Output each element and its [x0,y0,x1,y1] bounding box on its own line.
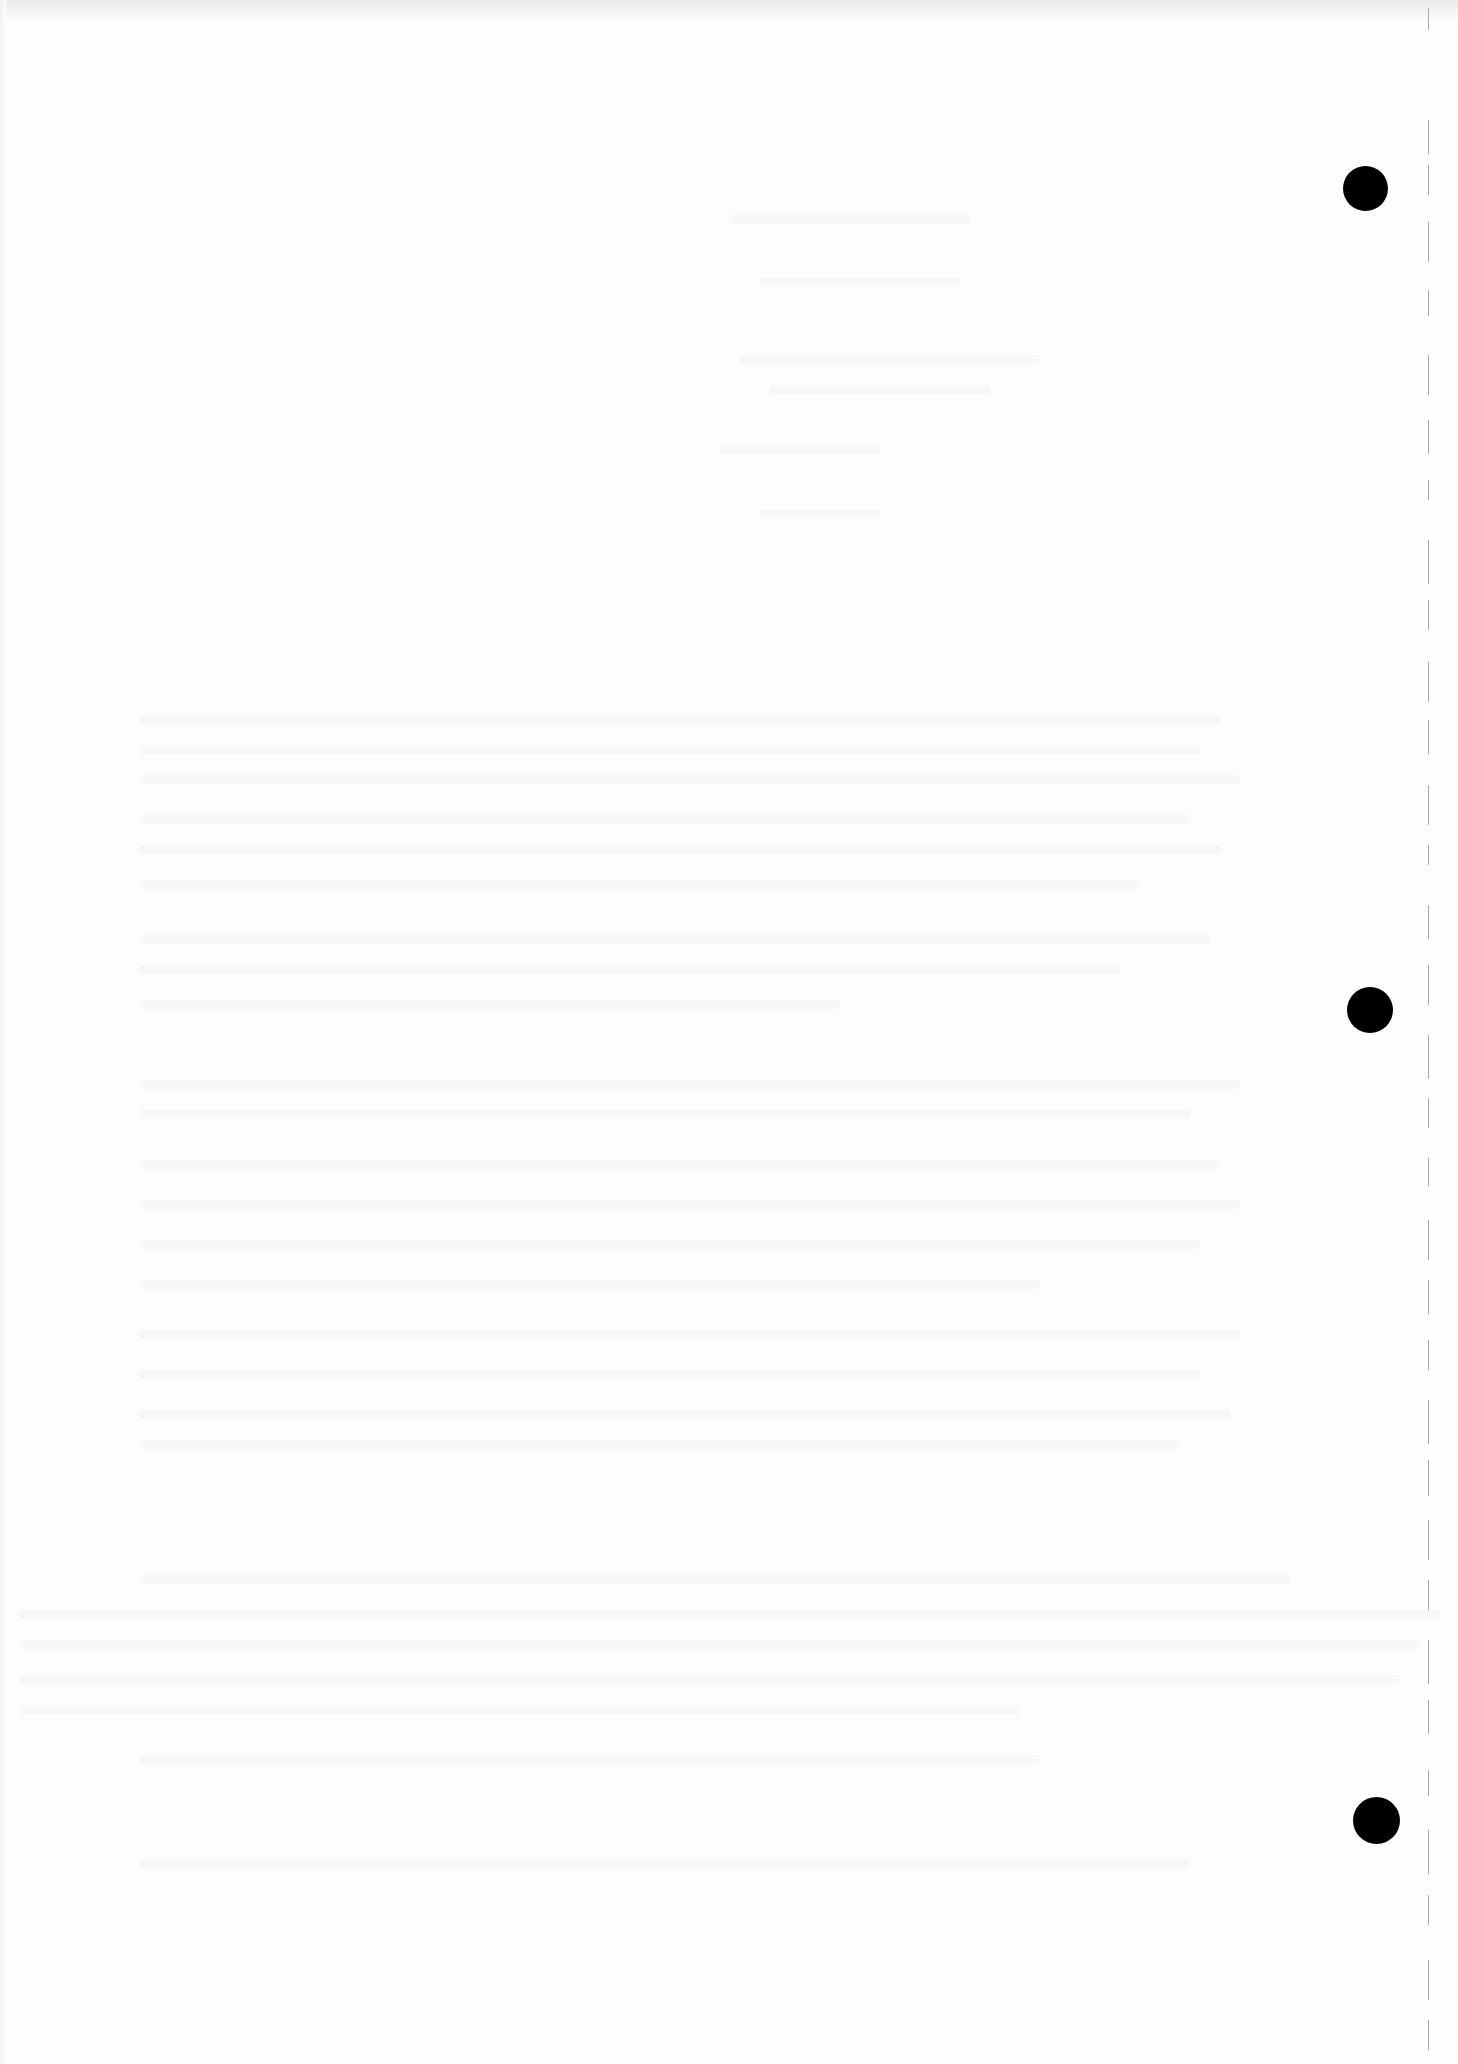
scan-edge-shadow-top [0,0,1458,22]
perforation-dash [1428,845,1429,865]
perforation-dash [1428,1960,1429,2000]
show-through-line [20,1705,1020,1714]
show-through-line [140,1440,1180,1449]
scanned-page [0,0,1458,2064]
show-through-line [760,510,880,519]
perforation-dash [1428,720,1429,754]
show-through-line [140,845,1220,854]
perforation-dash [1428,1830,1429,1874]
perforation-dash [1428,420,1429,454]
show-through-line [140,1160,1220,1169]
show-through-line [140,1575,1290,1584]
perforation-dash [1428,8,1429,30]
perforation-dash [1428,1895,1429,1925]
show-through-line [140,745,1200,754]
perforation-dash [1428,1158,1429,1186]
show-through-line [140,1280,1040,1289]
show-through-line [140,1755,1040,1764]
show-through-line [140,1330,1240,1339]
perforation-dash [1428,290,1429,316]
punch-hole-icon [1343,166,1388,211]
show-through-line [140,1370,1200,1379]
perforation-dash [1428,662,1429,702]
perforation-dash [1428,1220,1429,1260]
perforation-dash [1428,1098,1429,1128]
perforation-dash [1428,965,1429,1005]
show-through-line [140,1000,840,1009]
perforation-dash [1428,540,1429,584]
show-through-line [140,815,1190,824]
perforation-dash [1428,165,1429,195]
show-through-line [140,1860,1190,1869]
show-through-line [140,715,1220,724]
perforation-dash [1428,905,1429,939]
perforation-dash [1428,1280,1429,1314]
scan-edge-shadow-left [0,0,6,2064]
show-through-line [760,278,960,287]
perforation-dash [1428,1580,1429,1610]
perforation-dash [1428,785,1429,825]
show-through-line [720,445,880,454]
show-through-line [770,385,990,394]
perforation-dash [1428,1700,1429,1734]
show-through-line [730,215,970,224]
perforation-dash [1428,1770,1429,1796]
show-through-line [140,775,1240,784]
show-through-line [20,1640,1420,1649]
punch-hole-icon [1347,987,1393,1033]
perforation-dash [1428,222,1429,262]
perforation-line [1428,0,1430,2064]
show-through-line [140,1200,1240,1209]
perforation-dash [1428,1400,1429,1444]
perforation-dash [1428,1460,1429,1496]
show-through-line [20,1675,1400,1684]
show-through-line [140,880,1140,889]
show-through-line [140,935,1210,944]
punch-hole-icon [1353,1797,1400,1844]
perforation-dash [1428,600,1429,630]
perforation-dash [1428,480,1429,500]
show-through-line [140,965,1120,974]
perforation-dash [1428,355,1429,395]
perforation-dash [1428,1035,1429,1079]
show-through-line [140,1080,1240,1089]
show-through-line [140,1110,1190,1119]
show-through-line [740,355,1040,364]
perforation-dash [1428,1520,1429,1560]
show-through-line [140,1240,1200,1249]
perforation-dash [1428,1640,1429,1684]
perforation-dash [1428,2020,1429,2050]
perforation-dash [1428,1340,1429,1370]
show-through-line [140,1410,1230,1419]
perforation-dash [1428,120,1429,154]
show-through-line [20,1610,1440,1619]
